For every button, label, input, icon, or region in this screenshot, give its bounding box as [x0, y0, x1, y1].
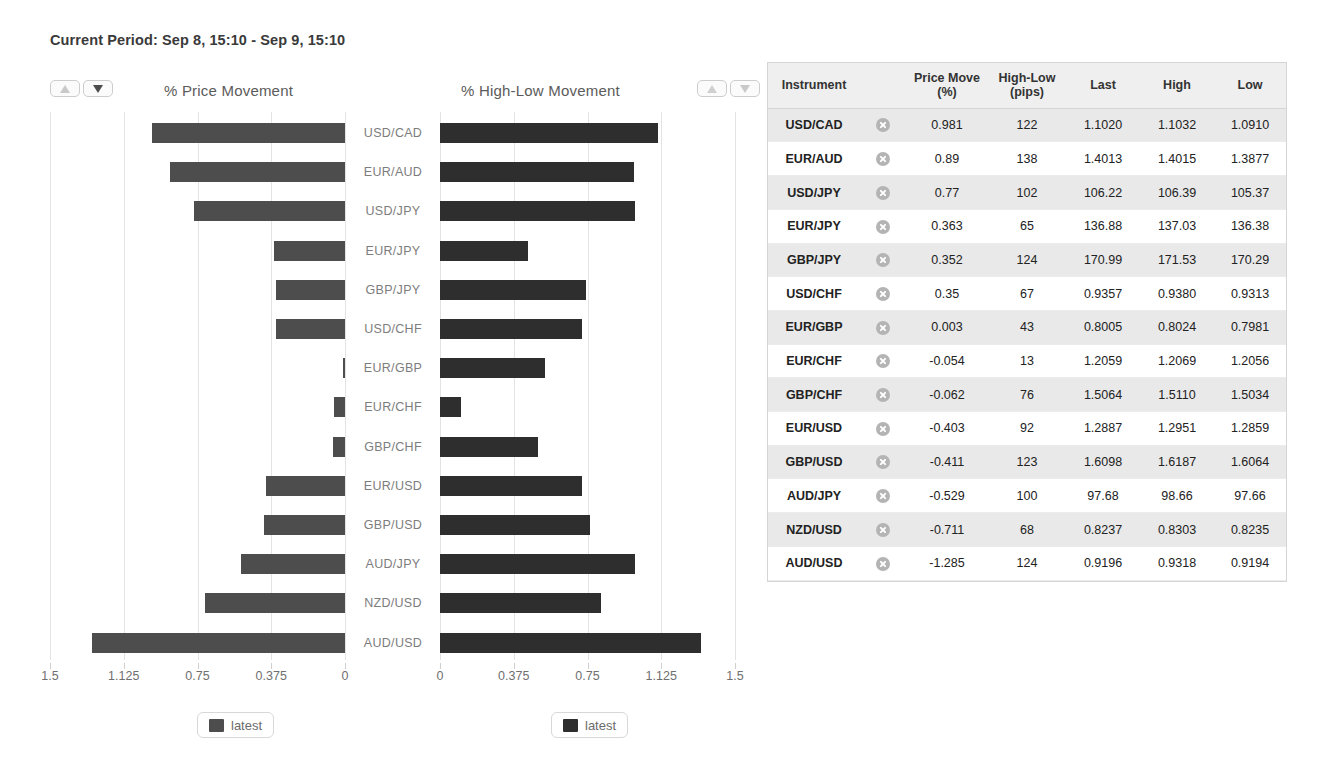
left-chart-sort-controls[interactable] — [50, 80, 113, 97]
bar-gbp-jpy[interactable] — [276, 280, 345, 300]
cell-price-move: 0.981 — [906, 108, 988, 142]
cell-high: 1.1032 — [1140, 108, 1214, 142]
table-row[interactable]: USD/CHF0.35670.93570.93800.9313 — [768, 277, 1286, 311]
close-circle-icon[interactable] — [876, 118, 890, 132]
close-circle-icon[interactable] — [876, 321, 890, 335]
remove-instrument-button[interactable] — [860, 513, 906, 547]
bar-eur-jpy[interactable] — [440, 241, 528, 261]
table-row[interactable]: NZD/USD-0.711680.82370.83030.8235 — [768, 513, 1286, 547]
bar-usd-chf[interactable] — [440, 319, 582, 339]
remove-instrument-button[interactable] — [860, 412, 906, 446]
remove-instrument-button[interactable] — [860, 378, 906, 412]
table-row[interactable]: USD/CAD0.9811221.10201.10321.0910 — [768, 108, 1286, 142]
close-circle-icon[interactable] — [876, 220, 890, 234]
bar-usd-jpy[interactable] — [194, 201, 345, 221]
cell-high-low: 43 — [988, 310, 1066, 344]
column-header-instrument[interactable]: Instrument — [768, 63, 860, 108]
bar-eur-jpy[interactable] — [274, 241, 345, 261]
column-header-price-move-line1: Price Move — [914, 71, 980, 85]
table-row[interactable]: USD/JPY0.77102106.22106.39105.37 — [768, 176, 1286, 210]
bar-gbp-chf[interactable] — [333, 437, 345, 457]
remove-instrument-button[interactable] — [860, 310, 906, 344]
bar-nzd-usd[interactable] — [205, 593, 345, 613]
close-circle-icon[interactable] — [876, 388, 890, 402]
table-row[interactable]: AUD/JPY-0.52910097.6898.6697.66 — [768, 479, 1286, 513]
cell-price-move: 0.77 — [906, 176, 988, 210]
bar-gbp-usd[interactable] — [440, 515, 590, 535]
bar-eur-usd[interactable] — [440, 476, 582, 496]
table-row[interactable]: AUD/USD-1.2851240.91960.93180.9194 — [768, 546, 1286, 580]
table-row[interactable]: EUR/CHF-0.054131.20591.20691.2056 — [768, 344, 1286, 378]
bar-eur-gbp[interactable] — [440, 358, 545, 378]
close-circle-icon[interactable] — [876, 152, 890, 166]
remove-instrument-button[interactable] — [860, 142, 906, 176]
bar-gbp-usd[interactable] — [264, 515, 345, 535]
column-header-high-low[interactable]: High-Low (pips) — [988, 63, 1066, 108]
close-circle-icon[interactable] — [876, 287, 890, 301]
remove-instrument-button[interactable] — [860, 108, 906, 142]
bar-eur-usd[interactable] — [266, 476, 345, 496]
table-row[interactable]: EUR/AUD0.891381.40131.40151.3877 — [768, 142, 1286, 176]
table-row[interactable]: EUR/JPY0.36365136.88137.03136.38 — [768, 209, 1286, 243]
column-header-high[interactable]: High — [1140, 63, 1214, 108]
bar-usd-cad[interactable] — [440, 123, 658, 143]
bar-eur-aud[interactable] — [440, 162, 634, 182]
close-circle-icon[interactable] — [876, 354, 890, 368]
right-chart-legend[interactable]: latest — [551, 712, 628, 738]
bar-eur-aud[interactable] — [170, 162, 345, 182]
column-header-last[interactable]: Last — [1066, 63, 1140, 108]
category-label: USD/CHF — [350, 322, 436, 336]
bar-eur-gbp[interactable] — [343, 358, 345, 378]
gridline — [514, 112, 515, 660]
bar-usd-jpy[interactable] — [440, 201, 635, 221]
remove-instrument-button[interactable] — [860, 209, 906, 243]
close-circle-icon[interactable] — [876, 523, 890, 537]
table-row[interactable]: GBP/USD-0.4111231.60981.61871.6064 — [768, 445, 1286, 479]
right-sort-descending-button[interactable] — [730, 80, 760, 97]
right-sort-ascending-button[interactable] — [697, 80, 727, 97]
table-row[interactable]: GBP/CHF-0.062761.50641.51101.5034 — [768, 378, 1286, 412]
bar-nzd-usd[interactable] — [440, 593, 601, 613]
cell-high-low: 100 — [988, 479, 1066, 513]
column-header-price-move[interactable]: Price Move (%) — [906, 63, 988, 108]
remove-instrument-button[interactable] — [860, 176, 906, 210]
table-row[interactable]: EUR/GBP0.003430.80050.80240.7981 — [768, 310, 1286, 344]
category-label: USD/CAD — [350, 126, 436, 140]
cell-instrument: GBP/USD — [768, 445, 860, 479]
remove-instrument-button[interactable] — [860, 243, 906, 277]
close-circle-icon[interactable] — [876, 557, 890, 571]
table-row[interactable]: GBP/JPY0.352124170.99171.53170.29 — [768, 243, 1286, 277]
bar-eur-chf[interactable] — [334, 397, 345, 417]
cell-price-move: -1.285 — [906, 546, 988, 580]
bar-aud-usd[interactable] — [92, 633, 345, 653]
close-circle-icon[interactable] — [876, 422, 890, 436]
bar-gbp-jpy[interactable] — [440, 280, 586, 300]
left-chart-legend[interactable]: latest — [197, 712, 274, 738]
cell-last: 1.1020 — [1066, 108, 1140, 142]
bar-aud-jpy[interactable] — [241, 554, 345, 574]
right-chart-sort-controls[interactable] — [697, 80, 760, 97]
table-row[interactable]: EUR/USD-0.403921.28871.29511.2859 — [768, 412, 1286, 446]
left-sort-ascending-button[interactable] — [50, 80, 80, 97]
remove-instrument-button[interactable] — [860, 445, 906, 479]
cell-instrument: AUD/JPY — [768, 479, 860, 513]
remove-instrument-button[interactable] — [860, 546, 906, 580]
remove-instrument-button[interactable] — [860, 479, 906, 513]
remove-instrument-button[interactable] — [860, 277, 906, 311]
left-sort-descending-button[interactable] — [83, 80, 113, 97]
close-circle-icon[interactable] — [876, 253, 890, 267]
triangle-down-icon — [740, 85, 750, 93]
close-circle-icon[interactable] — [876, 186, 890, 200]
bar-aud-usd[interactable] — [440, 633, 701, 653]
cell-price-move: 0.89 — [906, 142, 988, 176]
close-circle-icon[interactable] — [876, 489, 890, 503]
cell-last: 0.9357 — [1066, 277, 1140, 311]
close-circle-icon[interactable] — [876, 455, 890, 469]
column-header-low[interactable]: Low — [1214, 63, 1286, 108]
bar-eur-chf[interactable] — [440, 397, 461, 417]
bar-usd-chf[interactable] — [276, 319, 345, 339]
bar-usd-cad[interactable] — [152, 123, 345, 143]
bar-gbp-chf[interactable] — [440, 437, 538, 457]
remove-instrument-button[interactable] — [860, 344, 906, 378]
bar-aud-jpy[interactable] — [440, 554, 635, 574]
